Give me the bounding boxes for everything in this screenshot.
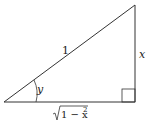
triangle-outline: [4, 5, 135, 102]
opposite-side-label: x: [139, 48, 146, 61]
hypotenuse-label: 1: [62, 44, 69, 57]
adjacent-side-label: 1 − x 2: [53, 106, 88, 120]
exponent-text: 2: [83, 106, 87, 114]
triangle-diagram: 1 x y 1 − x 2: [0, 0, 148, 126]
right-angle-marker: [122, 89, 135, 102]
angle-label: y: [36, 83, 44, 96]
